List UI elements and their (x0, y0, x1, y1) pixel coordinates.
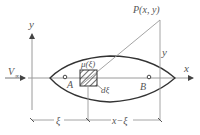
diagram-canvas: y x V ∞ y P(x, y) μ(ξ) dξ A B (0, 0, 200, 135)
source-strength-label: μ(ξ) (80, 59, 95, 69)
freestream-arrow: V ∞ (5, 66, 25, 79)
dimension-line: ξ x−ξ (30, 113, 162, 127)
point-A-label: A (66, 79, 74, 90)
y-axis-label: y (28, 18, 34, 30)
y-height-label: y (161, 46, 167, 58)
dim-x-minus-xi-label: x−ξ (111, 115, 128, 127)
source-element: μ(ξ) dξ (80, 59, 110, 120)
y-axis: y (28, 18, 34, 110)
element-width-label: dξ (101, 85, 110, 95)
dim-xi-label: ξ (56, 115, 61, 127)
x-axis-label: x (183, 62, 189, 74)
point-A: A (63, 75, 74, 90)
freestream-subscript: ∞ (15, 73, 20, 79)
point-P-label: P(x, y) (132, 4, 160, 16)
point-B-label: B (140, 81, 146, 92)
